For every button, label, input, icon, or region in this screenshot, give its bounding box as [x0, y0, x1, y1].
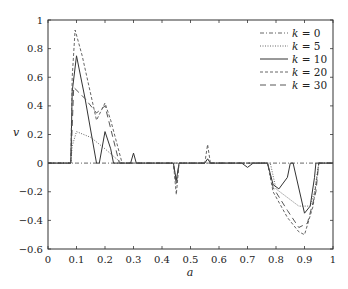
x-tick-label: 0.1 [69, 254, 85, 265]
y-tick-label: 0.8 [27, 43, 43, 54]
y-tick-label: −0.2 [19, 186, 43, 197]
y-tick-label: 0.2 [27, 129, 43, 140]
legend-label: k = 10 [292, 53, 327, 65]
legend-label: k = 30 [292, 79, 327, 91]
y-tick-label: 0.4 [27, 100, 43, 111]
y-tick-label: 1 [37, 15, 43, 26]
series-line-4 [48, 87, 333, 227]
x-tick-label: 0.5 [183, 254, 199, 265]
y-tick-label: −0.6 [19, 244, 43, 255]
series-lines [48, 30, 333, 235]
legend: k = 0k = 5k = 10k = 20k = 30 [260, 27, 327, 91]
line-chart: 00.10.20.30.40.50.60.70.80.91−0.6−0.4−0.… [0, 0, 348, 289]
x-tick-label: 0.2 [97, 254, 113, 265]
series-line-2 [48, 56, 333, 213]
series-line-1 [48, 132, 333, 207]
legend-label: k = 0 [292, 27, 321, 39]
x-tick-label: 0.7 [240, 254, 256, 265]
y-tick-label: −0.4 [19, 215, 43, 226]
legend-label: k = 5 [292, 40, 321, 52]
y-axis-label: v [13, 126, 20, 139]
x-tick-label: 0.4 [154, 254, 170, 265]
x-tick-label: 0.3 [126, 254, 142, 265]
x-tick-label: 0 [45, 254, 51, 265]
legend-label: k = 20 [292, 66, 327, 78]
y-tick-label: 0 [37, 158, 43, 169]
plot-frame [48, 20, 333, 249]
x-tick-label: 0.6 [211, 254, 227, 265]
x-tick-label: 0.8 [268, 254, 284, 265]
x-tick-label: 1 [330, 254, 336, 265]
axes-frame [48, 20, 333, 249]
x-tick-label: 0.9 [297, 254, 313, 265]
x-axis-label: a [187, 266, 194, 279]
tick-marks: 00.10.20.30.40.50.60.70.80.91−0.6−0.4−0.… [19, 15, 336, 266]
y-tick-label: 0.6 [27, 72, 43, 83]
